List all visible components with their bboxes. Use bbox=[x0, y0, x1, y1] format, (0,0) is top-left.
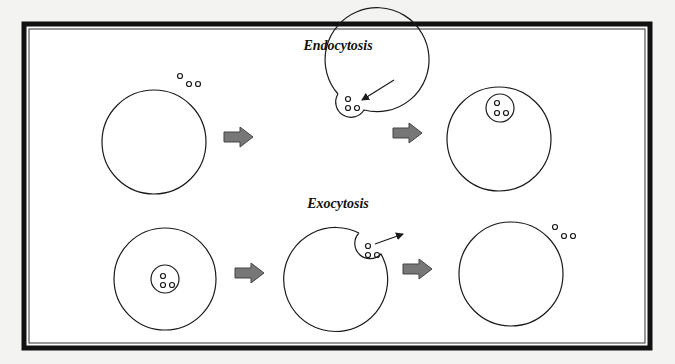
diagram-svg bbox=[0, 0, 675, 364]
diagram-canvas: Endocytosis Exocytosis bbox=[0, 0, 675, 364]
exocytosis-title: Exocytosis bbox=[307, 196, 368, 212]
endocytosis-title: Endocytosis bbox=[303, 38, 372, 54]
